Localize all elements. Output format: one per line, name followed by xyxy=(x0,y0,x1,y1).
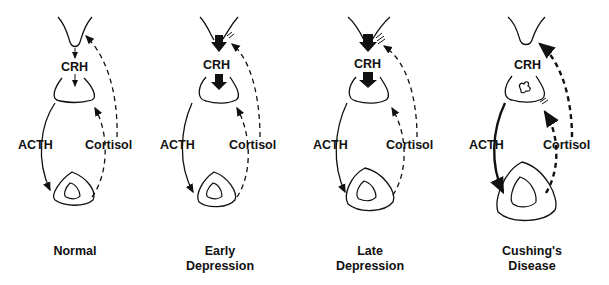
cortisol-feedback-long xyxy=(232,44,260,137)
inhibition-marks xyxy=(227,32,234,38)
pituitary-shape xyxy=(505,76,544,102)
cortisol-feedback-short xyxy=(237,108,248,197)
adrenal-outer xyxy=(54,172,94,205)
panel-cushings-disease xyxy=(494,17,572,220)
cortisol-label-cushings: Cortisol xyxy=(543,138,590,152)
cortisol-feedback-short xyxy=(92,108,105,197)
caption-cushings-disease: Cushing's Disease xyxy=(477,244,587,274)
crh-arrow-thick-2 xyxy=(211,74,227,90)
acth-label-cushings: ACTH xyxy=(469,138,504,152)
crh-label-early: CRH xyxy=(203,58,230,72)
adrenal-outer xyxy=(198,172,236,207)
acth-label-late: ACTH xyxy=(313,138,348,152)
crh-arrow-thick xyxy=(211,35,227,52)
cortisol-label-late: Cortisol xyxy=(386,138,433,152)
acth-label-early: ACTH xyxy=(160,138,195,152)
adrenal-inner xyxy=(357,181,376,201)
cortisol-label-normal: Cortisol xyxy=(85,138,132,152)
cortisol-feedback-long-thick xyxy=(540,44,572,137)
caption-normal: Normal xyxy=(20,244,130,259)
inhibition-marks xyxy=(376,33,385,44)
crh-arrow-thick-2 xyxy=(359,72,377,88)
caption-late-depression: Late Depression xyxy=(315,244,425,274)
acth-label-normal: ACTH xyxy=(18,138,53,152)
adrenal-inner xyxy=(207,183,222,199)
hypothalamus-shape xyxy=(58,17,92,47)
cortisol-feedback-long xyxy=(384,46,417,137)
panel-normal xyxy=(41,17,117,205)
panel-early-depression xyxy=(182,17,260,207)
crh-label-late: CRH xyxy=(354,57,381,71)
adrenal-outer xyxy=(346,168,393,211)
caption-early-depression: Early Depression xyxy=(165,244,275,274)
crh-label-normal: CRH xyxy=(61,60,88,74)
crh-label-cushings: CRH xyxy=(514,58,541,72)
cortisol-label-early: Cortisol xyxy=(229,138,276,152)
adrenal-inner xyxy=(511,177,536,207)
panel-late-depression xyxy=(336,17,417,211)
adrenal-inner xyxy=(65,183,80,199)
pituitary-tumor xyxy=(519,82,530,93)
pituitary-shape xyxy=(54,78,94,102)
hypothalamus-shape xyxy=(508,17,545,45)
